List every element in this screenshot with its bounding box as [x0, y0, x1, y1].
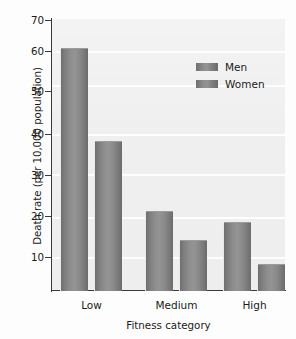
y-tick-label-60: 60 [4, 46, 44, 56]
legend-swatch-women-icon [196, 80, 218, 88]
y-tick-label-20: 20 [4, 211, 44, 221]
y-axis-title: Death rate (per 10,000 population) [31, 31, 43, 281]
chart-legend: Men Women [196, 58, 265, 92]
y-tick-mark-50 [45, 91, 52, 92]
legend-item-women: Women [196, 75, 265, 92]
bar-chart-figure: Death rate (per 10,000 population) 70 60… [0, 0, 296, 339]
bar-medium-women [180, 240, 207, 291]
bar-medium-men [146, 211, 173, 291]
y-axis-line [51, 18, 52, 292]
bar-low-men [61, 48, 88, 291]
x-category-label-high: High [224, 299, 285, 311]
legend-label-men: Men [225, 61, 247, 73]
y-tick-mark-30 [45, 175, 52, 176]
y-tick-mark-40 [45, 134, 52, 135]
x-axis-title: Fitness category [52, 319, 285, 331]
bar-high-men [224, 222, 251, 291]
legend-swatch-men-icon [196, 63, 218, 71]
y-tick-mark-20 [45, 216, 52, 217]
y-tick-label-70: 70 [4, 15, 44, 25]
y-tick-label-30: 30 [4, 170, 44, 180]
y-tick-label-40: 40 [4, 129, 44, 139]
x-category-label-medium: Medium [146, 299, 207, 311]
y-tick-label-10: 10 [4, 252, 44, 262]
y-tick-mark-10 [45, 257, 52, 258]
bar-high-women [258, 264, 285, 291]
x-category-label-low: Low [61, 299, 122, 311]
bar-low-women [95, 141, 122, 291]
y-tick-mark-70 [45, 20, 52, 21]
legend-item-men: Men [196, 58, 265, 75]
y-tick-mark-60 [45, 51, 52, 52]
legend-label-women: Women [225, 78, 265, 90]
y-tick-label-50: 50 [4, 86, 44, 96]
